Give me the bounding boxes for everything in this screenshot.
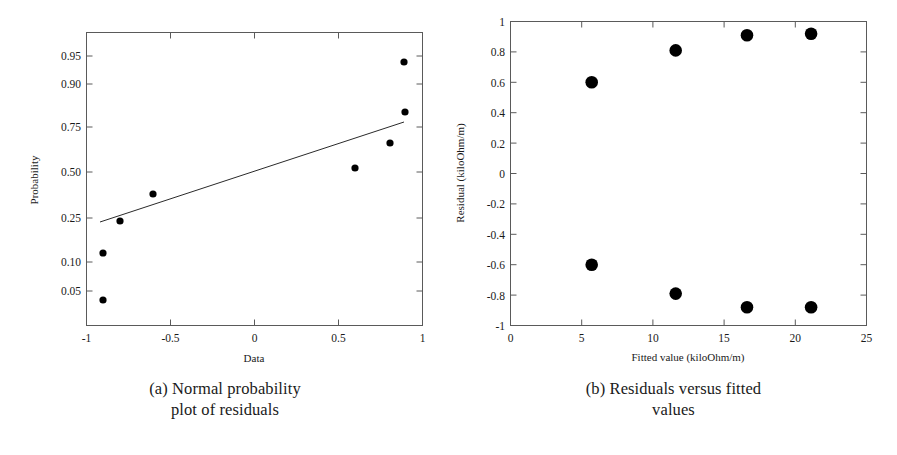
y-tick-label-a: 0.25 — [61, 212, 81, 224]
x-tick-label-a: 1 — [420, 332, 426, 344]
y-tick-label-b: 1 — [499, 16, 505, 28]
x-tick-labels-a: -1 -0.5 0 0.5 1 — [82, 332, 426, 344]
x-tick-label-a: 0.5 — [331, 332, 346, 344]
x-tick-label-b: 25 — [861, 332, 873, 344]
normal-probability-plot-svg: 0.95 0.90 0.75 0.50 0.25 0.10 0.05 -1 -0… — [0, 0, 450, 375]
panel-a-normal-probability-plot: 0.95 0.90 0.75 0.50 0.25 0.10 0.05 -1 -0… — [0, 0, 450, 455]
x-ticks-b — [582, 22, 796, 326]
y-tick-label-b: -0.2 — [487, 198, 505, 210]
y-ticks-a — [87, 56, 423, 291]
data-point — [116, 217, 123, 224]
x-tick-label-b: 15 — [718, 332, 730, 344]
x-tick-label-a: -0.5 — [161, 332, 179, 344]
panel-b-residual-vs-fitted-plot: 1 0.8 0.6 0.4 0.2 0 -0.2 -0.4 -0.6 -0.8 … — [450, 0, 897, 455]
residual-vs-fitted-plot-svg: 1 0.8 0.6 0.4 0.2 0 -0.2 -0.4 -0.6 -0.8 … — [450, 0, 897, 375]
data-point — [99, 296, 106, 303]
data-point — [99, 249, 106, 256]
reference-fit-line — [100, 122, 404, 222]
data-point — [585, 76, 598, 89]
data-point — [741, 29, 754, 42]
data-point — [149, 190, 156, 197]
y-tick-labels-a: 0.95 0.90 0.75 0.50 0.25 0.10 0.05 — [61, 50, 81, 297]
x-axis-title-a: Data — [244, 352, 265, 364]
panel-a-caption-line-1: (a) Normal probability — [0, 378, 450, 399]
plot-frame-b — [511, 22, 867, 326]
x-tick-labels-b: 0 5 10 15 20 25 — [508, 332, 873, 344]
data-point — [669, 287, 682, 300]
data-point — [805, 301, 818, 314]
y-axis-title-a: Probability — [28, 155, 40, 204]
y-tick-label-b: 0.8 — [491, 46, 506, 58]
data-point — [805, 27, 818, 40]
panel-b-caption: (b) Residuals versus fitted values — [450, 378, 897, 420]
x-tick-label-b: 0 — [508, 332, 514, 344]
data-point — [669, 44, 682, 57]
y-tick-label-a: 0.10 — [61, 256, 81, 268]
data-point — [741, 301, 754, 314]
y-tick-label-a: 0.95 — [61, 50, 81, 62]
y-tick-labels-b: 1 0.8 0.6 0.4 0.2 0 -0.2 -0.4 -0.6 -0.8 … — [487, 16, 505, 332]
panel-a-caption: (a) Normal probability plot of residuals — [0, 378, 450, 420]
x-tick-label-a: -1 — [82, 332, 92, 344]
panel-b-caption-line-1: (b) Residuals versus fitted — [450, 378, 897, 399]
data-point — [400, 58, 407, 65]
panel-a-caption-line-2: plot of residuals — [0, 399, 450, 420]
x-tick-label-b: 10 — [647, 332, 659, 344]
y-tick-label-b: -0.4 — [487, 229, 505, 241]
y-tick-label-b: -0.8 — [487, 290, 505, 302]
data-point — [351, 164, 358, 171]
x-tick-label-b: 5 — [579, 332, 585, 344]
panel-b-caption-line-2: values — [450, 399, 897, 420]
y-tick-label-a: 0.05 — [61, 285, 81, 297]
data-points-b — [585, 27, 817, 313]
data-points-a — [99, 58, 408, 303]
figure-two-panel-residual-diagnostics: 0.95 0.90 0.75 0.50 0.25 0.10 0.05 -1 -0… — [0, 0, 897, 455]
y-tick-label-b: -0.6 — [487, 259, 505, 271]
y-tick-label-b: 0 — [499, 168, 505, 180]
data-point — [585, 258, 598, 271]
x-tick-label-a: 0 — [252, 332, 258, 344]
x-ticks-a — [171, 33, 339, 326]
y-tick-label-a: 0.75 — [61, 121, 81, 133]
data-point — [386, 139, 393, 146]
x-tick-label-b: 20 — [790, 332, 802, 344]
y-axis-title-b: Residual (kiloOhm/m) — [454, 123, 467, 223]
y-ticks-b — [511, 52, 867, 295]
y-tick-label-a: 0.90 — [61, 78, 81, 90]
y-tick-label-b: 0.6 — [491, 77, 506, 89]
plot-frame-a — [87, 33, 423, 326]
y-tick-label-a: 0.50 — [61, 166, 81, 178]
y-tick-label-b: -1 — [495, 320, 505, 332]
x-axis-title-b: Fitted value (kiloOhm/m) — [631, 351, 744, 364]
y-tick-label-b: 0.4 — [491, 107, 506, 119]
y-tick-label-b: 0.2 — [491, 138, 506, 150]
data-point — [401, 108, 408, 115]
